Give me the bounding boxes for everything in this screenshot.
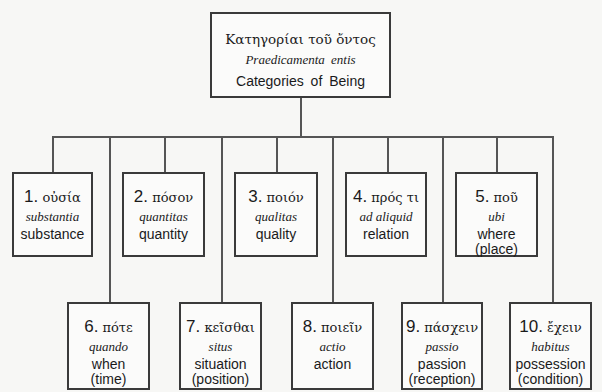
root-node-categories-of-being: Κατηγορίαι τοῦ ὄντος Praedicamenta entis… xyxy=(210,12,391,98)
root-english-label: Categories of Being xyxy=(236,71,365,91)
category-greek-label: 9. πάσχειν xyxy=(406,318,478,337)
category-english-label: where (place) xyxy=(475,227,518,257)
category-node-quantity: 2. πόσον quantitas quantity xyxy=(122,172,205,257)
category-node-situation: 7. κεῖσθαι situs situation (position) xyxy=(179,302,262,390)
root-greek-label: Κατηγορίαι τοῦ ὄντος xyxy=(225,29,375,49)
category-latin-label: ubi xyxy=(488,207,505,227)
category-greek-label: 7. κεῖσθαι xyxy=(186,318,255,337)
category-english-label: passion (reception) xyxy=(409,357,476,387)
category-greek-label: 4. πρός τι xyxy=(353,188,419,207)
category-latin-label: qualitas xyxy=(255,207,297,227)
root-latin-label: Praedicamenta entis xyxy=(245,49,355,71)
category-english-label: action xyxy=(314,357,351,372)
category-latin-label: quando xyxy=(89,337,128,357)
category-english-label: quantity xyxy=(139,227,188,242)
category-english-label: substance xyxy=(21,227,85,242)
category-node-when: 6. πότε quando when (time) xyxy=(67,302,150,390)
category-greek-label: 5. ποῦ xyxy=(475,188,518,207)
category-greek-label: 2. πόσον xyxy=(134,188,193,207)
connector-5 xyxy=(496,136,498,172)
connector-3 xyxy=(276,136,278,172)
category-latin-label: substantia xyxy=(26,207,79,227)
category-node-where: 5. ποῦ ubi where (place) xyxy=(455,172,538,257)
category-greek-label: 8. ποιεῖν xyxy=(303,318,363,337)
category-node-substance: 1. οὐσία substantia substance xyxy=(12,172,93,257)
category-node-passion: 9. πάσχειν passio passion (reception) xyxy=(401,302,483,390)
category-latin-label: ad aliquid xyxy=(359,207,412,227)
category-greek-label: 1. οὐσία xyxy=(24,188,81,207)
category-latin-label: passio xyxy=(425,337,458,357)
root-stem-connector xyxy=(300,97,302,136)
category-node-possession: 10. ἔχειν habitus possession (condition) xyxy=(509,302,592,390)
connector-1 xyxy=(52,136,54,172)
category-greek-label: 6. πότε xyxy=(84,318,133,337)
connector-8 xyxy=(332,136,334,302)
category-latin-label: actio xyxy=(320,337,346,357)
category-greek-label: 3. ποιόν xyxy=(248,188,304,207)
category-node-relation: 4. πρός τι ad aliquid relation xyxy=(345,172,427,257)
category-english-label: quality xyxy=(256,227,296,242)
category-english-label: possession (condition) xyxy=(515,357,585,387)
category-greek-label: 10. ἔχειν xyxy=(519,318,581,337)
category-english-label: relation xyxy=(363,227,409,242)
connector-6 xyxy=(109,136,111,302)
horizontal-bus-connector xyxy=(52,136,553,138)
connector-7 xyxy=(221,136,223,302)
connector-2 xyxy=(164,136,166,172)
connector-4 xyxy=(387,136,389,172)
category-node-quality: 3. ποιόν qualitas quality xyxy=(234,172,318,257)
category-english-label: when (time) xyxy=(91,357,127,387)
connector-9 xyxy=(442,136,444,302)
category-english-label: situation (position) xyxy=(192,357,250,387)
category-node-action: 8. ποιεῖν actio action xyxy=(291,302,374,390)
connector-10 xyxy=(552,136,554,302)
category-latin-label: situs xyxy=(209,337,233,357)
category-latin-label: habitus xyxy=(531,337,569,357)
category-latin-label: quantitas xyxy=(139,207,187,227)
